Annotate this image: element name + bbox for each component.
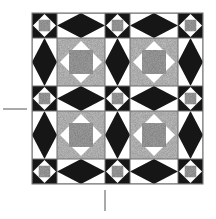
block-stipple-block bbox=[57, 111, 105, 159]
block-h-diamond bbox=[130, 86, 178, 111]
block-small-star bbox=[32, 86, 57, 111]
grey-center-square bbox=[69, 123, 93, 147]
block-v-diamond bbox=[178, 111, 203, 159]
block-v-diamond bbox=[178, 38, 203, 86]
block-stipple-block bbox=[57, 38, 105, 86]
block-h-diamond bbox=[57, 86, 105, 111]
grey-center-square bbox=[185, 20, 197, 32]
block-small-star bbox=[32, 13, 57, 38]
quilt-pattern bbox=[0, 0, 216, 219]
grey-center-square bbox=[69, 50, 93, 74]
grey-center-square bbox=[185, 166, 197, 178]
block-small-star bbox=[178, 86, 203, 111]
block-small-star bbox=[105, 13, 130, 38]
block-small-star bbox=[105, 159, 130, 184]
block-small-star bbox=[178, 13, 203, 38]
block-small-star bbox=[32, 159, 57, 184]
grey-center-square bbox=[142, 50, 166, 74]
block-h-diamond bbox=[57, 159, 105, 184]
block-v-diamond bbox=[105, 38, 130, 86]
block-small-star bbox=[105, 86, 130, 111]
grey-center-square bbox=[39, 166, 51, 178]
block-stipple-block bbox=[130, 38, 178, 86]
block-v-diamond bbox=[32, 38, 57, 86]
grey-center-square bbox=[39, 93, 51, 105]
block-v-diamond bbox=[32, 111, 57, 159]
block-small-star bbox=[178, 159, 203, 184]
grey-center-square bbox=[112, 20, 124, 32]
block-stipple-block bbox=[130, 111, 178, 159]
block-v-diamond bbox=[105, 111, 130, 159]
quilt-blocks bbox=[32, 13, 203, 184]
grey-center-square bbox=[112, 166, 124, 178]
block-h-diamond bbox=[130, 159, 178, 184]
block-h-diamond bbox=[57, 13, 105, 38]
grey-center-square bbox=[112, 93, 124, 105]
grey-center-square bbox=[185, 93, 197, 105]
grey-center-square bbox=[142, 123, 166, 147]
block-h-diamond bbox=[130, 13, 178, 38]
grey-center-square bbox=[39, 20, 51, 32]
